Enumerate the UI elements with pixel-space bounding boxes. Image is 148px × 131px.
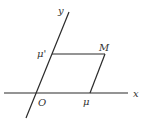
y-axis xyxy=(26,12,69,118)
mu-label: μ xyxy=(83,96,90,107)
point-M-label: M xyxy=(98,42,110,53)
segment-M-to-mu xyxy=(90,54,105,93)
oblique-coordinate-diagram: y x O M μ μ' xyxy=(0,0,148,131)
origin-label: O xyxy=(38,97,46,108)
y-axis-label: y xyxy=(57,5,64,16)
mu-prime-label: μ' xyxy=(37,48,46,59)
x-axis-label: x xyxy=(133,88,139,99)
